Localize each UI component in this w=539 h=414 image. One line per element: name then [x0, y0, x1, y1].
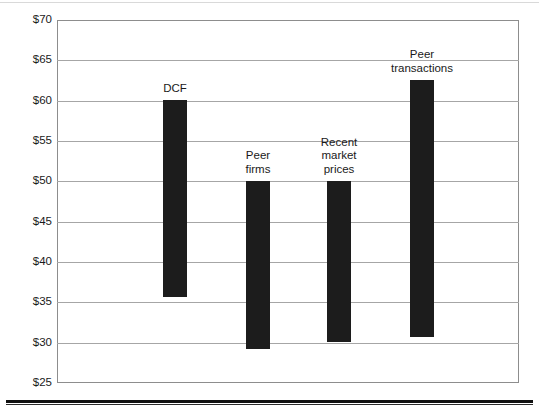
bar-peer-transactions	[410, 80, 434, 337]
gridline	[57, 343, 519, 344]
y-tick-label: $70	[4, 14, 52, 25]
y-tick-label: $60	[4, 95, 52, 106]
y-tick-label: $55	[4, 135, 52, 146]
gridline	[57, 101, 519, 102]
bar-label-dcf: DCF	[125, 82, 225, 96]
y-tick-label: $25	[4, 377, 52, 388]
y-tick-label: $50	[4, 175, 52, 186]
gridline	[57, 222, 519, 223]
bar-recent-market-prices	[327, 181, 351, 342]
bottom-horizontal-rule-shadow	[6, 404, 533, 405]
y-tick-label: $40	[4, 256, 52, 267]
y-tick-label: $45	[4, 216, 52, 227]
gridline	[57, 141, 519, 142]
bar-label-recent-market-prices: Recent market prices	[289, 136, 389, 177]
valuation-football-field-chart: $70$65$60$55$50$45$40$35$30$25 DCFPeer f…	[0, 0, 539, 400]
y-tick-label: $65	[4, 54, 52, 65]
gridline	[57, 181, 519, 182]
bar-peer-firms	[246, 181, 270, 349]
bottom-horizontal-rule	[6, 400, 533, 403]
bar-dcf	[163, 100, 187, 297]
gridline	[57, 262, 519, 263]
bar-label-peer-transactions: Peer transactions	[372, 48, 472, 75]
chart-page: $70$65$60$55$50$45$40$35$30$25 DCFPeer f…	[0, 0, 539, 414]
y-tick-label: $35	[4, 296, 52, 307]
gridline	[57, 302, 519, 303]
y-tick-label: $30	[4, 337, 52, 348]
